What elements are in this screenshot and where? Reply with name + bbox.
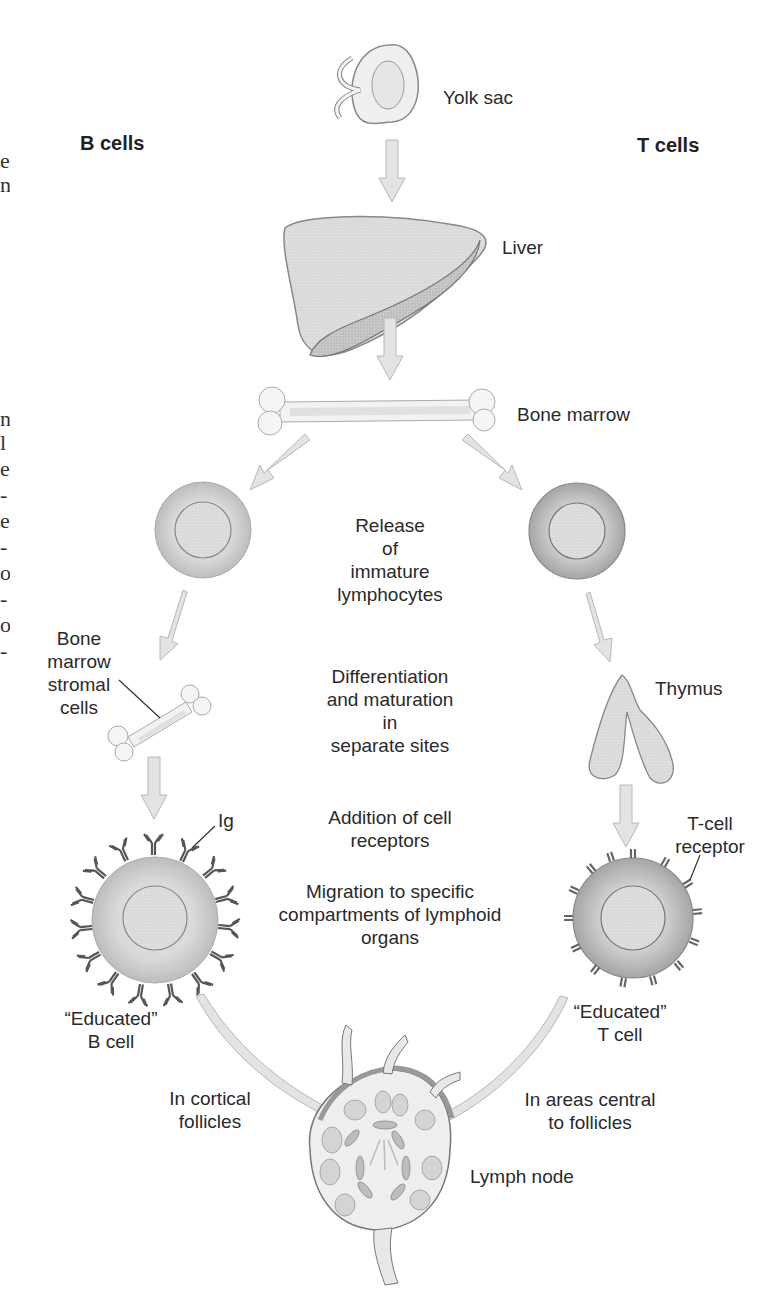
arrow-marrow-to-t-precursor <box>462 434 522 490</box>
arrow-yolk-to-liver <box>379 140 405 202</box>
arrow-thymus-to-t-cell <box>613 785 639 847</box>
cortical-follicles-label: In cortical follicles <box>150 1087 270 1133</box>
thymus-label: Thymus <box>655 677 723 700</box>
educated-b-cell-icon <box>70 826 239 1007</box>
bone-marrow-icon <box>258 387 495 435</box>
arrow-marrow-to-b-precursor <box>250 434 310 490</box>
t-cells-heading: T cells <box>637 134 699 157</box>
arrow-stromal-to-b-cell <box>141 757 167 819</box>
yolk-sac-label: Yolk sac <box>443 86 513 109</box>
lymph-node-label: Lymph node <box>470 1165 574 1188</box>
t-cell-receptor-label: T-cell receptor <box>665 812 755 858</box>
step-release-text: Release of immature lymphocytes <box>300 514 480 606</box>
b-cells-heading: B cells <box>80 132 144 155</box>
immature-b-lymphocyte-icon <box>155 482 251 578</box>
educated-t-cell-icon <box>564 849 702 987</box>
areas-central-label: In areas central to follicles <box>500 1088 680 1134</box>
yolk-sac-icon <box>337 45 419 124</box>
ig-label: Ig <box>218 809 234 832</box>
bone-marrow-stromal-label: Bone marrow stromal cells <box>24 627 134 719</box>
step-migration-text: Migration to specific compartments of ly… <box>255 880 525 949</box>
arrow-t-to-thymus <box>586 592 612 662</box>
educated-t-cell-label: “Educated” T cell <box>555 1000 685 1046</box>
immature-t-lymphocyte-icon <box>529 483 625 579</box>
bone-marrow-label: Bone marrow <box>517 403 630 426</box>
educated-b-cell-label: “Educated” B cell <box>46 1007 176 1053</box>
lymph-node-icon <box>310 1025 460 1285</box>
ig-leader-line <box>192 826 215 848</box>
liver-label: Liver <box>502 236 543 259</box>
tcr-leader-line <box>690 855 700 880</box>
step-differentiation-text: Differentiation and maturation in separa… <box>295 665 485 757</box>
arrow-b-to-stromal <box>160 590 187 660</box>
step-addition-text: Addition of cell receptors <box>295 806 485 852</box>
